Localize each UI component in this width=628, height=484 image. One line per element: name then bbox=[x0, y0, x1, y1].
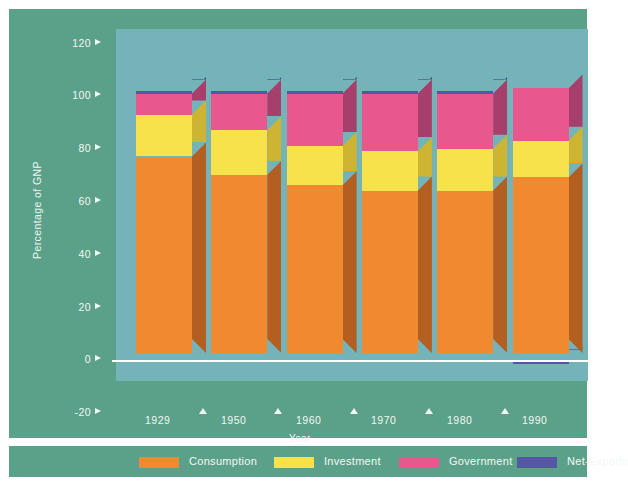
bar-segment-1990-consumption bbox=[513, 177, 569, 353]
y-tick-100: 100 bbox=[47, 89, 91, 101]
bar-side-1980-net-exports bbox=[493, 77, 507, 80]
y-tick-label: -20 bbox=[75, 406, 91, 418]
y-tick-marker bbox=[95, 39, 101, 45]
y-tick-marker bbox=[95, 91, 101, 97]
bar-side-1929-government bbox=[192, 80, 206, 101]
bar-side-1990-government bbox=[569, 74, 583, 126]
bar-side-1950-consumption bbox=[267, 161, 281, 339]
x-tick-label-1990: 1990 bbox=[522, 414, 547, 426]
bar-segment-1990-investment bbox=[513, 141, 569, 178]
x-tick-marker-2 bbox=[274, 408, 282, 414]
bar-segment-1950-investment bbox=[211, 130, 267, 175]
bar-foot-1990 bbox=[569, 339, 583, 353]
bar-segment-1980-government bbox=[437, 94, 493, 149]
legend-label-investment: Investment bbox=[324, 455, 381, 467]
y-tick-20: 20 bbox=[47, 301, 91, 313]
bar-segment-1980-net-exports bbox=[437, 91, 493, 94]
legend-swatch-government bbox=[399, 457, 439, 468]
y-tick-marker bbox=[95, 408, 101, 414]
bar-side-1960-consumption bbox=[343, 171, 357, 339]
y-tick-label: 0 bbox=[85, 353, 91, 365]
bar-foot-1970 bbox=[418, 339, 432, 353]
legend-label-net-exports: Net-Exports bbox=[567, 455, 628, 467]
x-tick-label-1970: 1970 bbox=[371, 414, 396, 426]
y-tick-label: 80 bbox=[79, 142, 91, 154]
y-tick-120: 120 bbox=[47, 37, 91, 49]
bar-segment-1970-net-exports bbox=[362, 91, 418, 94]
bar-segment-1960-investment bbox=[287, 146, 343, 185]
bar-side-1929-consumption bbox=[192, 143, 206, 340]
bar-segment-1970-consumption bbox=[362, 191, 418, 353]
legend-swatch-net-exports bbox=[517, 457, 557, 468]
y-tick-marker bbox=[95, 144, 101, 150]
bar-foot-1950 bbox=[267, 339, 281, 353]
y-tick-minus20: -20 bbox=[47, 406, 91, 418]
bar-side-1970-investment bbox=[418, 137, 432, 176]
x-axis-title: Year bbox=[289, 433, 311, 444]
x-tick-label-1980: 1980 bbox=[447, 414, 472, 426]
bar-segment-1970-investment bbox=[362, 151, 418, 190]
bar-segment-1929-government bbox=[136, 94, 192, 115]
zero-baseline bbox=[112, 360, 589, 362]
y-tick-marker bbox=[95, 197, 101, 203]
bar-segment-1960-consumption bbox=[287, 185, 343, 353]
y-tick-40: 40 bbox=[47, 248, 91, 260]
bar-side-1970-net-exports bbox=[418, 77, 432, 80]
bar-segment-1950-government bbox=[211, 94, 267, 131]
bar-segment-1960-government bbox=[287, 94, 343, 146]
legend-swatch-investment bbox=[274, 457, 314, 468]
x-tick-label-1929: 1929 bbox=[145, 414, 170, 426]
bar-foot-1960 bbox=[343, 339, 357, 353]
bar-side-1990-consumption bbox=[569, 163, 583, 339]
y-tick-label: 60 bbox=[79, 195, 91, 207]
bar-segment-1990-government bbox=[513, 88, 569, 140]
bar-side-1970-consumption bbox=[418, 177, 432, 339]
legend-label-government: Government bbox=[449, 455, 513, 467]
y-tick-label: 40 bbox=[79, 248, 91, 260]
x-tick-label-1960: 1960 bbox=[296, 414, 321, 426]
chart-panel: Percentage of GNP 120 100 80 60 40 20 0 bbox=[8, 8, 588, 439]
y-tick-marker bbox=[95, 250, 101, 256]
bar-side-1960-net-exports bbox=[343, 77, 357, 80]
bar-side-1960-government bbox=[343, 80, 357, 132]
bar-side-1980-consumption bbox=[493, 177, 507, 339]
y-tick-label: 120 bbox=[72, 37, 91, 49]
bar-segment-1929-consumption bbox=[136, 157, 192, 354]
bar-side-1950-net-exports bbox=[267, 77, 281, 80]
chart-legend: Consumption Investment Government Net-Ex… bbox=[8, 445, 588, 478]
bar-side-1970-government bbox=[418, 80, 432, 138]
bar-side-1929-investment bbox=[192, 101, 206, 143]
y-axis-title: Percentage of GNP bbox=[31, 130, 43, 290]
y-tick-60: 60 bbox=[47, 195, 91, 207]
bar-side-1950-investment bbox=[267, 116, 281, 161]
bar-segment-1950-net-exports bbox=[211, 91, 267, 94]
y-tick-0: 0 bbox=[47, 353, 91, 365]
bar-segment-1950-consumption bbox=[211, 175, 267, 353]
bar-1990[interactable] bbox=[513, 9, 583, 419]
bar-side-1980-investment bbox=[493, 135, 507, 177]
x-tick-label-1950: 1950 bbox=[221, 414, 246, 426]
bar-segment-1980-investment bbox=[437, 149, 493, 191]
bar-side-1980-government bbox=[493, 80, 507, 135]
y-tick-marker bbox=[95, 303, 101, 309]
bar-1970[interactable] bbox=[362, 9, 432, 419]
bar-segment-1929-investment bbox=[136, 115, 192, 157]
y-tick-80: 80 bbox=[47, 142, 91, 154]
bar-1950[interactable] bbox=[211, 9, 281, 419]
bar-side-1990-investment bbox=[569, 127, 583, 164]
bar-side-1929-net-exports bbox=[192, 77, 206, 80]
x-tick-marker-5 bbox=[501, 408, 509, 414]
bar-1960[interactable] bbox=[287, 9, 357, 419]
y-tick-marker bbox=[95, 355, 101, 361]
bar-1980[interactable] bbox=[437, 9, 507, 419]
x-tick-marker-3 bbox=[350, 408, 358, 414]
bar-1929[interactable] bbox=[136, 9, 206, 419]
bar-segment-1980-consumption bbox=[437, 191, 493, 353]
legend-label-consumption: Consumption bbox=[189, 455, 257, 467]
bar-foot-1929 bbox=[192, 339, 206, 353]
x-tick-marker-1 bbox=[199, 408, 207, 414]
x-tick-marker-4 bbox=[425, 408, 433, 414]
bar-side-1960-investment bbox=[343, 132, 357, 171]
bar-segment-1970-government bbox=[362, 94, 418, 152]
